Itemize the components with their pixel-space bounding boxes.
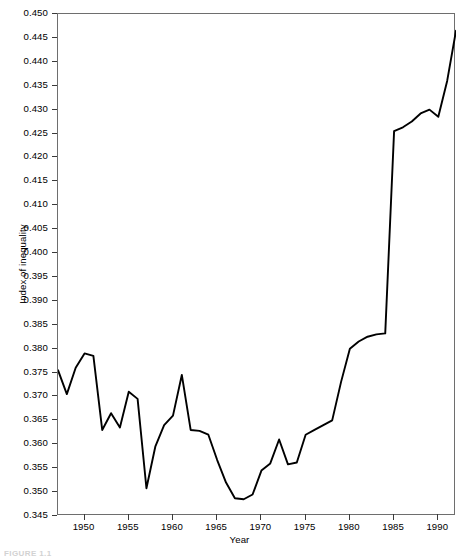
x-tick-mark (84, 514, 85, 520)
y-tick-label: 0.410 (23, 199, 48, 209)
line-chart-svg (58, 14, 456, 516)
y-tick-label: 0.425 (23, 128, 48, 138)
x-tick-mark (437, 514, 438, 520)
y-tick-label: 0.375 (23, 367, 48, 377)
y-tick-label: 0.420 (23, 152, 48, 162)
y-tick-label: 0.395 (23, 271, 48, 281)
y-axis: 0.3450.3500.3550.3600.3650.3700.3750.380… (0, 0, 57, 528)
y-tick-label: 0.445 (23, 32, 48, 42)
y-tick-label: 0.435 (23, 80, 48, 90)
x-tick-label: 1975 (294, 522, 316, 532)
y-tick-label: 0.430 (23, 104, 48, 114)
y-tick-label: 0.400 (23, 247, 48, 257)
x-tick-label: 1955 (117, 522, 139, 532)
figure-container: Index of inequality 0.3450.3500.3550.360… (0, 0, 465, 559)
x-tick-label: 1985 (382, 522, 404, 532)
x-tick-mark (393, 514, 394, 520)
x-tick-label: 1990 (426, 522, 448, 532)
x-tick-mark (349, 514, 350, 520)
y-tick-label: 0.365 (23, 415, 48, 425)
y-tick-label: 0.350 (23, 486, 48, 496)
x-tick-mark (305, 514, 306, 520)
x-tick-label: 1970 (250, 522, 272, 532)
figure-caption: FIGURE 1.1 (4, 549, 204, 559)
y-tick-label: 0.385 (23, 319, 48, 329)
x-tick-mark (128, 514, 129, 520)
y-tick-label: 0.380 (23, 343, 48, 353)
x-tick-mark (172, 514, 173, 520)
x-tick-mark (216, 514, 217, 520)
data-series-line (58, 31, 456, 500)
x-axis-title: Year (230, 534, 250, 545)
x-tick-label: 1980 (338, 522, 360, 532)
y-tick-label: 0.450 (23, 8, 48, 18)
plot-area (57, 13, 455, 515)
x-tick-label: 1960 (161, 522, 183, 532)
y-tick-label: 0.360 (23, 438, 48, 448)
y-tick-label: 0.440 (23, 56, 48, 66)
y-tick-label: 0.390 (23, 295, 48, 305)
x-tick-label: 1950 (73, 522, 95, 532)
y-tick-label: 0.355 (23, 462, 48, 472)
y-tick-label: 0.370 (23, 391, 48, 401)
y-tick-label: 0.405 (23, 223, 48, 233)
x-axis-title-wrap: Year (0, 534, 465, 545)
y-tick-label: 0.415 (23, 176, 48, 186)
x-tick-mark (260, 514, 261, 520)
x-tick-label: 1965 (205, 522, 227, 532)
